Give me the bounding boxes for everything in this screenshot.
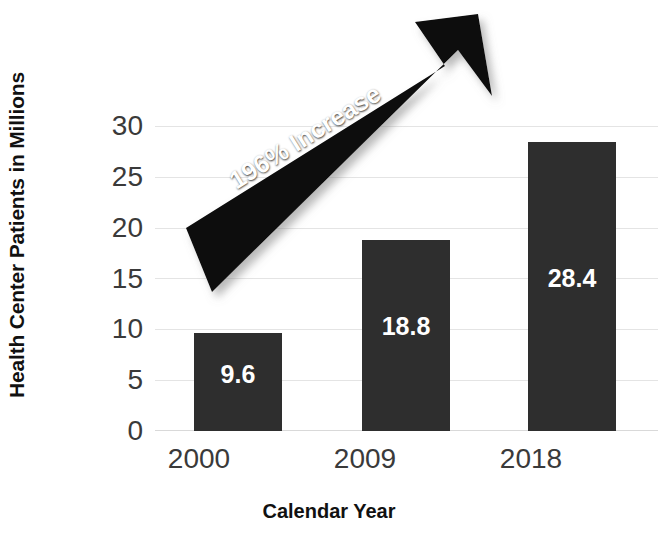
y-tick-label: 15 — [85, 265, 143, 293]
x-axis-title: Calendar Year — [0, 500, 658, 523]
x-tick-label-2000: 2000 — [139, 445, 259, 473]
bar-value-label: 9.6 — [221, 362, 256, 387]
gridline — [155, 126, 658, 127]
y-tick-label: 5 — [85, 366, 143, 394]
bar-value-label: 18.8 — [382, 314, 431, 339]
y-tick-label: 10 — [85, 315, 143, 343]
plot-area: 9.6 18.8 28.4 — [155, 126, 658, 431]
y-tick-label: 25 — [85, 163, 143, 191]
bar-2009[interactable]: 18.8 — [362, 240, 450, 431]
bar-2018[interactable]: 28.4 — [528, 142, 616, 431]
bar-2000[interactable]: 9.6 — [194, 333, 282, 431]
y-axis-tick-labels: 30 25 20 15 10 5 0 — [85, 126, 143, 431]
bar-value-label: 28.4 — [548, 266, 597, 291]
y-axis-title: Health Center Patients in Millions — [0, 0, 34, 470]
y-tick-label: 30 — [85, 112, 143, 140]
x-tick-label-2018: 2018 — [471, 445, 591, 473]
x-tick-label-2009: 2009 — [305, 445, 425, 473]
bar-chart: Health Center Patients in Millions 30 25… — [0, 0, 658, 550]
y-tick-label: 20 — [85, 214, 143, 242]
y-tick-label: 0 — [85, 417, 143, 445]
